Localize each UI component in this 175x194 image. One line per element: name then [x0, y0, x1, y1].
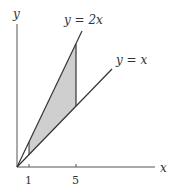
- diagram-canvas: y x y = 2x y = x 1 5: [0, 0, 175, 194]
- tick-label-5: 5: [72, 174, 79, 187]
- y-axis-label: y: [12, 7, 20, 21]
- x-axis-label: x: [160, 161, 167, 175]
- shaded-region: [29, 44, 76, 155]
- label-y-equals-2x: y = 2x: [63, 13, 103, 27]
- label-y-equals-x: y = x: [115, 53, 147, 67]
- tick-label-1: 1: [25, 174, 32, 187]
